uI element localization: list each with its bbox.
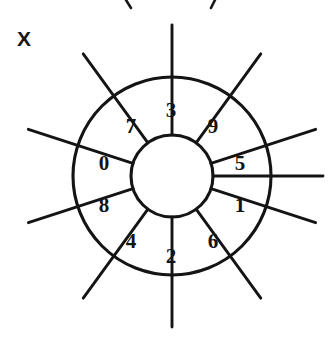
sector-digit-8: 8 — [99, 193, 110, 217]
sector-divider-line — [83, 209, 148, 298]
inner-circle-hub — [131, 135, 213, 217]
sector-digit-7: 7 — [126, 114, 137, 138]
top-crop-marks — [126, 0, 215, 8]
sector-digit-9: 9 — [208, 114, 219, 138]
top-crop-mark — [126, 0, 131, 8]
sector-digit-4: 4 — [126, 229, 137, 253]
top-crop-mark — [211, 0, 215, 8]
figure-canvas: X 3951624807 — [0, 0, 328, 339]
sector-digit-5: 5 — [235, 151, 246, 175]
sector-divider-line — [196, 209, 261, 298]
sector-digit-6: 6 — [208, 229, 219, 253]
sector-divider-line — [83, 54, 148, 143]
sector-divider-line — [196, 54, 261, 143]
sector-digit-3: 3 — [166, 98, 177, 122]
sector-digit-0: 0 — [99, 151, 110, 175]
sector-digit-2: 2 — [166, 244, 177, 268]
sector-wheel-graphic: 3951624807 — [0, 0, 328, 339]
sector-digit-1: 1 — [235, 193, 246, 217]
